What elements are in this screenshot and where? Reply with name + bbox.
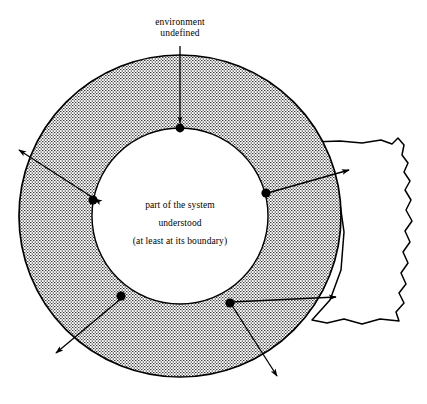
system-environment-diagram: environment undefined part of the system…: [0, 0, 427, 404]
dot-bottom-left: [116, 291, 125, 300]
environment-label-line2: undefined: [160, 28, 199, 38]
center-label-line2: understood: [158, 218, 201, 228]
dot-right: [261, 188, 270, 197]
center-label-line1: part of the system: [145, 200, 215, 210]
diagram-root: environment undefined part of the system…: [0, 0, 427, 404]
environment-undefined-label: environment undefined: [155, 17, 205, 38]
dot-top: [176, 124, 185, 133]
dot-bottom-right: [225, 298, 234, 307]
center-label-line3: (at least at its boundary): [133, 236, 227, 247]
dot-left: [88, 195, 97, 204]
inner-disc-region: [92, 128, 268, 304]
inner-circle-boundary: [92, 128, 268, 304]
environment-label-line1: environment: [155, 17, 205, 27]
